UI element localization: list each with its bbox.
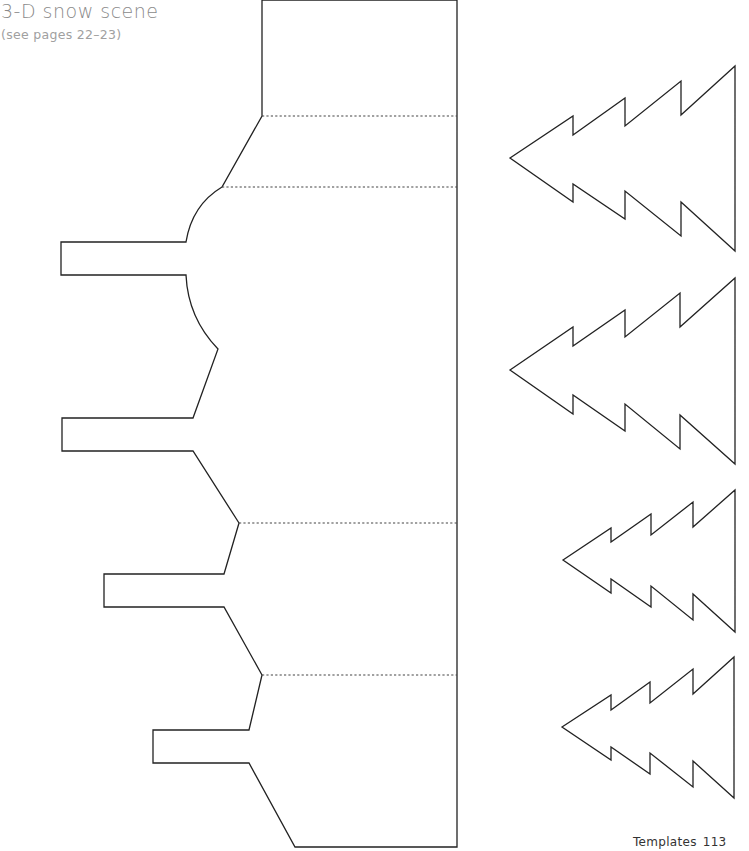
page-number: 113	[703, 835, 727, 849]
base-piece-outline	[61, 0, 457, 847]
page-footer: Templates113	[633, 835, 727, 849]
tree-4-outline	[562, 657, 734, 798]
tree-3-outline	[563, 490, 735, 632]
base-piece	[61, 0, 457, 847]
footer-section: Templates	[633, 835, 697, 849]
tree-1-outline	[510, 66, 735, 251]
template-artwork	[0, 0, 749, 851]
tree-2-outline	[510, 278, 735, 464]
